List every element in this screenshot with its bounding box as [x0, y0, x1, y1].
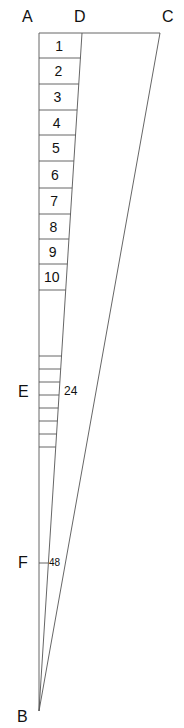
- numbered-cells: 12345678910: [39, 38, 80, 291]
- small-ticks: [39, 369, 61, 447]
- label-C: C: [162, 8, 174, 25]
- cell-number: 7: [50, 193, 58, 209]
- cell-number: 8: [49, 219, 57, 235]
- cell-number: 5: [52, 140, 60, 156]
- label-B: B: [17, 708, 28, 725]
- label-F: F: [18, 554, 28, 571]
- cell-number: 4: [53, 115, 61, 131]
- cell-number: 9: [49, 244, 57, 260]
- label-E: E: [18, 383, 29, 400]
- cell-number: 2: [54, 63, 62, 79]
- cell-number: 3: [54, 89, 62, 105]
- label-A: A: [22, 8, 33, 25]
- cell-number: 1: [55, 38, 63, 54]
- cell-number: 6: [51, 167, 59, 183]
- triangle-diagram: A D C E F B 12345678910 24 48: [0, 0, 184, 728]
- cell-number: 10: [44, 269, 60, 285]
- mark-E-value: 24: [64, 384, 78, 398]
- mark-F-value: 48: [49, 557, 61, 568]
- label-D: D: [74, 8, 86, 25]
